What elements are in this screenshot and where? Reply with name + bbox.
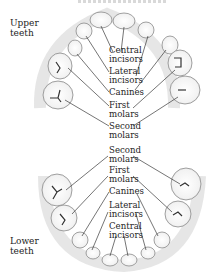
lower-central-incisor-right xyxy=(121,254,137,266)
lower-canine-right xyxy=(154,232,170,248)
label-upper-central-incisors: Central incisors xyxy=(109,46,143,64)
lower-second-molar-left xyxy=(42,174,72,206)
lower-lateral-incisor-right xyxy=(141,247,155,259)
upper-second-molar-left xyxy=(43,81,73,109)
upper-first-molar-right xyxy=(168,50,192,76)
upper-first-molar-left xyxy=(48,53,72,79)
upper-lateral-incisor-left xyxy=(76,23,92,39)
upper-teeth-label-line2: teeth xyxy=(10,28,39,38)
upper-canine-left xyxy=(68,40,82,56)
lower-lateral-incisor-left xyxy=(86,247,100,259)
teeth-illustration xyxy=(0,0,214,276)
label-upper-canines: Canines xyxy=(109,88,144,97)
label-lower-first-molars: First molars xyxy=(109,166,139,184)
upper-teeth-label-line1: Upper xyxy=(10,18,39,28)
upper-teeth-label: Upper teeth xyxy=(10,18,39,38)
label-line: molars xyxy=(109,175,139,184)
label-lower-lateral-incisors: Lateral incisors xyxy=(109,201,143,219)
upper-lateral-incisor-right xyxy=(138,22,154,38)
label-line: Canines xyxy=(109,88,144,97)
lower-teeth-label: Lower teeth xyxy=(10,236,39,256)
label-line: incisors xyxy=(109,76,143,85)
label-lower-canines: Canines xyxy=(109,187,144,196)
label-upper-lateral-incisors: Lateral incisors xyxy=(109,67,143,85)
lower-canine-left xyxy=(72,232,88,248)
label-lower-second-molars: Second molars xyxy=(109,146,141,164)
label-line: molars xyxy=(109,155,141,164)
lower-first-molar-right xyxy=(165,201,191,227)
lower-teeth-label-line1: Lower xyxy=(10,236,39,246)
label-line: incisors xyxy=(109,210,143,219)
label-line: molars xyxy=(109,131,141,140)
label-line: Canines xyxy=(109,187,144,196)
lower-teeth-label-line2: teeth xyxy=(10,246,39,256)
label-upper-first-molars: First molars xyxy=(109,101,139,119)
label-upper-second-molars: Second molars xyxy=(109,122,141,140)
label-line: incisors xyxy=(109,55,143,64)
label-lower-central-incisors: Central incisors xyxy=(109,222,143,240)
label-line: molars xyxy=(109,110,139,119)
upper-central-incisor-left xyxy=(90,12,112,28)
upper-central-incisor-right xyxy=(113,13,135,29)
label-line: incisors xyxy=(109,231,143,240)
